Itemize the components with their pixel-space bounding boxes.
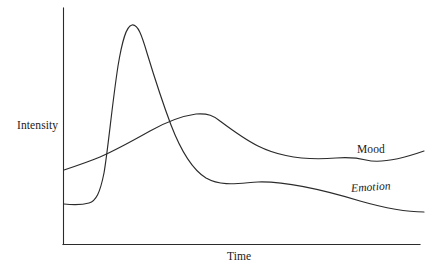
y-axis-title: Intensity: [17, 119, 58, 131]
series-line-mood: [64, 114, 424, 170]
chart-figure: Intensity Time Mood Emotion: [0, 0, 432, 278]
series-label-mood: Mood: [357, 143, 385, 155]
chart-plot-area: [0, 0, 432, 278]
x-axis-title: Time: [227, 250, 251, 262]
